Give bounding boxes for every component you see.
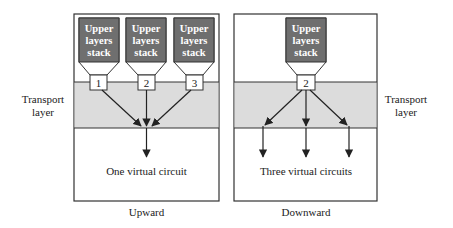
right-panel: Upper layers stack 2 Three virtual circu… xyxy=(234,14,377,218)
stack-label-line2: layers xyxy=(133,35,160,46)
stack-label-line1: Upper xyxy=(132,23,161,34)
port-number: 2 xyxy=(303,77,309,89)
stack-label-line3: stack xyxy=(294,47,317,58)
stack-label-line2: layers xyxy=(293,35,320,46)
stack-label-line3: stack xyxy=(87,47,110,58)
left-panel: Upper layers stack 1 Upper layers stack … xyxy=(74,14,219,218)
panel-caption-upward: Upward xyxy=(129,206,165,218)
stack-label-line3: stack xyxy=(182,47,205,58)
circuit-label: One virtual circuit xyxy=(106,165,187,177)
stack-label-line1: Upper xyxy=(85,23,114,34)
transport-layer-label-left-line2: layer xyxy=(32,106,54,118)
transport-layer-label-right-line1: Transport xyxy=(385,93,427,105)
stack-label-line2: layers xyxy=(86,35,113,46)
panel-caption-downward: Downward xyxy=(282,206,331,218)
stack-label-line3: stack xyxy=(134,47,157,58)
circuit-label: Three virtual circuits xyxy=(260,165,352,177)
transport-layer-label-right-line2: layer xyxy=(395,106,417,118)
port-number: 2 xyxy=(144,77,150,89)
stack-label-line2: layers xyxy=(181,35,208,46)
multiplexing-diagram: Upper layers stack 1 Upper layers stack … xyxy=(0,0,453,228)
stack-label-line1: Upper xyxy=(292,23,321,34)
port-number: 1 xyxy=(96,77,102,89)
transport-layer-label-left-line1: Transport xyxy=(22,93,64,105)
port-number: 3 xyxy=(192,77,198,89)
stack-label-line1: Upper xyxy=(180,23,209,34)
